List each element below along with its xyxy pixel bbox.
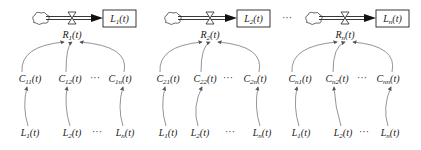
influence-arrow: [353, 42, 393, 72]
input-label: L2(t): [333, 127, 353, 140]
ellipsis: ···: [223, 72, 233, 83]
stock-flow-diagram: L1(t)R1(t)C11(t)C12(t)C1n(t)···L1(t)L2(t…: [0, 0, 421, 150]
rate-label: R1(t): [61, 29, 82, 42]
cloud-source-icon: [165, 12, 182, 24]
valve-icon: [68, 12, 76, 24]
influence-arrow: [386, 87, 391, 126]
rate-label: R2(t): [199, 29, 220, 42]
input-label: L1(t): [20, 127, 40, 140]
valve-icon: [341, 12, 349, 24]
influence-arrow: [160, 42, 202, 72]
flow-arrow-icon: [225, 14, 237, 22]
input-label: L1(t): [291, 127, 311, 140]
converter-label: C11(t): [19, 73, 42, 86]
influence-arrow: [80, 42, 125, 72]
input-label: Ln(t): [252, 127, 272, 140]
converter-label: C2n(t): [243, 73, 267, 86]
input-label: Ln(t): [115, 127, 135, 140]
panel-3: Ln(t)Rn(t)Cn1(t)Cn2(t)Cnn(t)···L1(t)L2(t…: [288, 10, 409, 140]
input-label: L2(t): [190, 127, 210, 140]
flow-arrow-icon: [364, 14, 376, 22]
influence-arrow: [218, 42, 260, 72]
converter-label: C12(t): [58, 73, 82, 86]
valve-icon: [206, 12, 214, 24]
influence-arrow: [334, 87, 341, 126]
converter-label: C21(t): [156, 73, 180, 86]
ellipsis: ···: [90, 72, 100, 83]
converter-label: Cn2(t): [325, 73, 349, 86]
input-label: L1(t): [158, 127, 178, 140]
converter-label: C22(t): [193, 73, 217, 86]
influence-arrow: [256, 87, 260, 126]
input-label: Ln(t): [380, 127, 400, 140]
influence-arrow: [120, 87, 123, 126]
cloud-source-icon: [306, 12, 323, 24]
ellipsis: ···: [225, 126, 235, 137]
converter-label: Cnn(t): [376, 73, 400, 86]
influence-arrow: [333, 42, 345, 72]
influence-arrow: [201, 42, 210, 72]
panel-1: L1(t)R1(t)C11(t)C12(t)C1n(t)···L1(t)L2(t…: [19, 10, 136, 140]
panel-ellipsis: ···: [282, 12, 292, 23]
influence-arrow: [196, 87, 202, 126]
input-label: L2(t): [62, 127, 82, 140]
ellipsis: ···: [92, 126, 102, 137]
ellipsis: ···: [359, 126, 369, 137]
rate-label: Rn(t): [334, 29, 355, 42]
influence-arrow: [163, 87, 166, 126]
cloud-source-icon: [33, 12, 50, 24]
influence-arrow: [25, 87, 28, 126]
influence-arrow: [292, 42, 337, 72]
influence-arrow: [22, 42, 64, 72]
influence-arrow: [66, 87, 70, 126]
influence-arrow: [66, 42, 72, 72]
panel-2: L2(t)R2(t)C21(t)C22(t)C2n(t)···L1(t)L2(t…: [156, 10, 271, 140]
influence-arrow: [295, 87, 299, 126]
flow-arrow-icon: [91, 14, 103, 22]
ellipsis: ···: [357, 72, 367, 83]
converter-label: C1n(t): [108, 73, 132, 86]
converter-label: Cn1(t): [288, 73, 312, 86]
